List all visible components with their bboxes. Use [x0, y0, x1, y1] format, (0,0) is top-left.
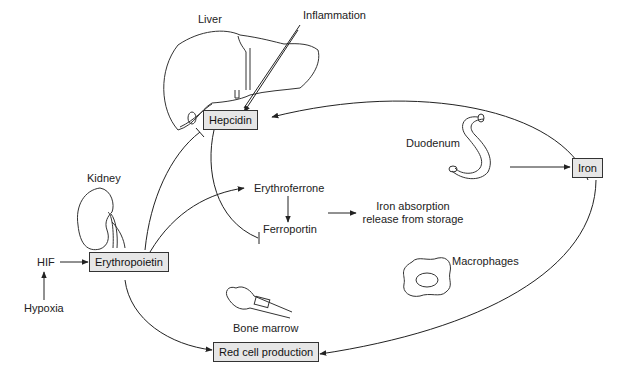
- kidney-label: Kidney: [87, 172, 121, 185]
- iron-absorption-label: Iron absorption release from storage: [358, 200, 468, 226]
- erythroferrone-label: Erythroferrone: [254, 182, 324, 195]
- kidney-icon: [77, 188, 125, 250]
- ferroportin-label: Ferroportin: [263, 223, 317, 236]
- iron-absorption-line2: release from storage: [358, 213, 468, 226]
- bone-marrow-icon: [226, 287, 292, 318]
- iron-node: Iron: [572, 158, 603, 178]
- liver-label: Liver: [198, 13, 222, 26]
- diagram-artwork: [0, 0, 634, 390]
- macrophages-label: Macrophages: [452, 255, 519, 268]
- hepcidin-node: Hepcidin: [203, 110, 258, 130]
- duodenum-label: Duodenum: [406, 137, 460, 150]
- bone-marrow-label: Bone marrow: [233, 322, 298, 335]
- iron-regulation-diagram: Liver Kidney Duodenum Macrophages Bone m…: [0, 0, 634, 390]
- erythropoietin-node: Erythropoietin: [89, 252, 169, 272]
- hypoxia-label: Hypoxia: [24, 302, 64, 315]
- macrophage-icon: [404, 258, 451, 297]
- inflammation-label: Inflammation: [303, 9, 366, 22]
- hif-label: HIF: [37, 256, 55, 269]
- red-cell-production-node: Red cell production: [213, 342, 319, 362]
- iron-absorption-line1: Iron absorption: [358, 200, 468, 213]
